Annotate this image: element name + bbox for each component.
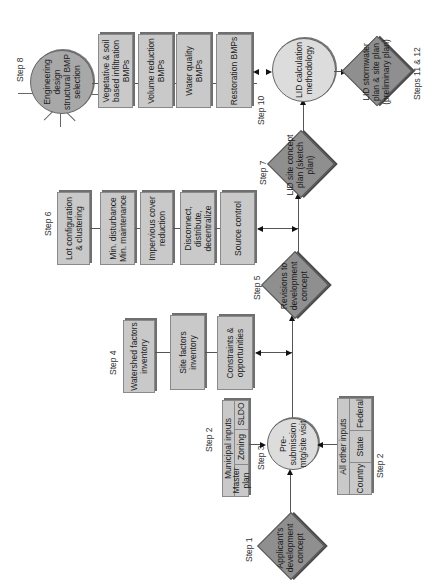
bmp-box-vegetative: Vegetative & soil based infiltration BMP…: [98, 34, 133, 108]
municipal-cell-master-plan: Master plan: [234, 464, 248, 496]
connector-step3-step5: [292, 316, 293, 420]
arrow-municipal-to-step3: [260, 442, 266, 448]
step10-label: Step 10: [256, 96, 266, 125]
connector-step6-2-3: [135, 228, 140, 229]
arrow-step10-to-restoration: [253, 69, 259, 75]
step6-label: Step 6: [43, 211, 53, 236]
step8-label: Step 8: [15, 57, 25, 82]
other-cell-state: State: [349, 430, 371, 462]
municipal-cell-sldo: SLDO: [234, 399, 248, 429]
bmp-box-restoration: Restoration BMPs: [216, 34, 252, 108]
connector-step4-1-2: [155, 352, 170, 353]
arrow-step4-spine-to-box: [255, 350, 261, 356]
arrow-step4-box-to-spine: [286, 350, 292, 356]
step1-label: Step 1: [244, 537, 254, 562]
step3-label: Step 3: [256, 445, 266, 470]
step2-municipal-label: Step 2: [204, 427, 214, 452]
other-inputs-table: All other inputs Country State Federal: [337, 398, 372, 495]
arrow-step6-box-to-spine: [292, 226, 298, 232]
step6-box-min-disturbance: Min. disturbance Min. maintenance: [100, 192, 135, 265]
step1-text: Applicant's development concept: [270, 516, 310, 580]
arrow-step6-spine-to-box: [257, 226, 263, 232]
lid-process-flowchart: Step 1 Applicant's development concept S…: [0, 0, 435, 580]
step5-label: Step 5: [252, 275, 262, 300]
step11-12-text: LID stormwater plan & site plan (prelimi…: [355, 34, 397, 110]
step4-box-watershed: Watershed factors inventory: [123, 320, 155, 393]
step6-box-lot-configuration: Lot configuration & clustering: [57, 192, 90, 265]
step6-box-impervious-cover: Impervious cover reduction: [140, 192, 173, 265]
bmp-box-water-quality: Water quality BMPs: [176, 34, 211, 108]
step8-circle: Engineering design structural BMP select…: [30, 50, 94, 114]
other-cell-federal: Federal: [349, 397, 371, 430]
step3-circle: Pre-submission mtg/site visit: [267, 418, 319, 470]
municipal-inputs-table: Municipal inputs Master plan Zoning SLDO: [222, 400, 249, 497]
connector-step5-step7: [298, 194, 299, 262]
step10-circle: LID calculation methodology: [272, 38, 336, 102]
connector-step6-4-5: [215, 228, 220, 229]
connector-step4-2-3: [205, 352, 217, 353]
step7-text: LID site concept plan (sketch plan): [280, 133, 320, 197]
step11-12-label: Steps 11 & 12: [412, 47, 422, 100]
other-cell-country: Country: [349, 462, 371, 494]
bmp-box-volume-reduction: Volume reduction BMPs: [138, 34, 173, 108]
step2-other-label: Step 2: [375, 453, 385, 478]
connector-step6-1-2: [90, 228, 100, 229]
arrow-other-to-step3: [317, 442, 323, 448]
step4-box-site-factors: Site factors inventory: [170, 315, 205, 390]
municipal-cell-zoning: Zoning: [234, 429, 248, 464]
step6-box-disconnect: Disconnect, distribute, decentralize: [180, 192, 215, 265]
step4-label: Step 4: [108, 350, 118, 375]
step5-text: Revisions to development concept: [274, 254, 314, 318]
step6-box-source-control: Source control: [220, 192, 255, 265]
step4-box-constraints: Constraints & opportunities: [217, 316, 253, 390]
connector-step6-3-4: [173, 228, 180, 229]
